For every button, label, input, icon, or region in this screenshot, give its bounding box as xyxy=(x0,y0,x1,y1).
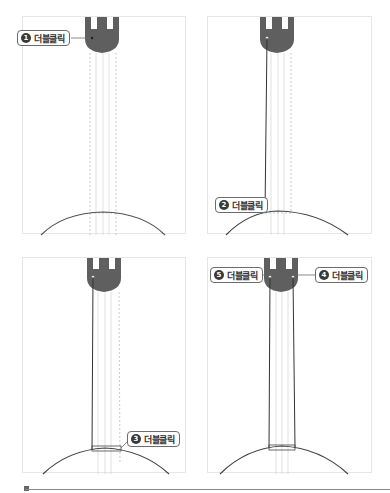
step-number-badge: 2 xyxy=(219,200,229,210)
headstock-shape xyxy=(260,17,294,53)
step-panel-3: 3 더블클릭 xyxy=(22,257,186,473)
guitar-drawing xyxy=(208,258,373,474)
headstock-shape xyxy=(85,17,119,53)
step-number-badge: 3 xyxy=(131,434,141,444)
callout-step-3: 3 더블클릭 xyxy=(127,431,180,447)
callout-label: 더블클릭 xyxy=(332,269,363,282)
step-panel-2: 2 더블클릭 xyxy=(207,16,372,234)
step-number-badge: 5 xyxy=(214,270,224,280)
callout-step-5: 5 더블클릭 xyxy=(210,267,263,283)
guitar-drawing xyxy=(23,17,187,235)
callout-label: 더블클릭 xyxy=(34,32,65,45)
callout-step-4: 4 더블클릭 xyxy=(315,267,368,283)
callout-step-1: 1 더블클릭 xyxy=(17,30,70,46)
footer-divider xyxy=(25,489,390,490)
step-panel-1: 1 더블클릭 xyxy=(22,16,186,234)
callout-label: 더블클릭 xyxy=(227,269,258,282)
step-number-badge: 4 xyxy=(319,270,329,280)
callout-step-2: 2 더블클릭 xyxy=(215,197,268,213)
step-number-badge: 1 xyxy=(21,33,31,43)
callout-label: 더블클릭 xyxy=(232,199,263,212)
callout-label: 더블클릭 xyxy=(144,433,175,446)
step-panel-4: 5 더블클릭 4 더블클릭 xyxy=(207,257,372,473)
headstock-shape xyxy=(87,258,121,292)
